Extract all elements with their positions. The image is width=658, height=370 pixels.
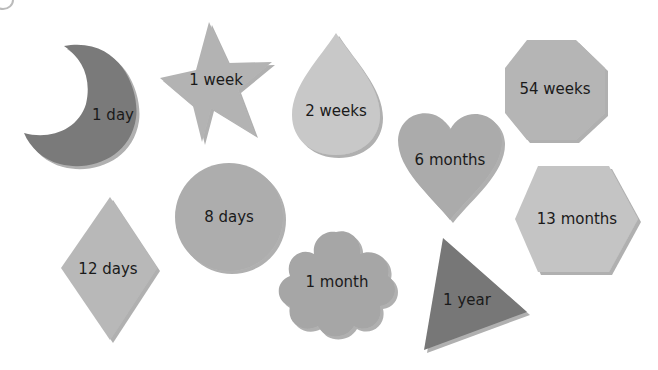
diamond-shape: 12 days <box>61 197 157 340</box>
triangle-label: 1 year <box>443 291 492 309</box>
drop-label: 2 weeks <box>305 102 367 120</box>
shapes-canvas: 1 day 1 week 2 weeks 54 weeks 6 months 1… <box>0 0 658 370</box>
hexagon-label: 13 months <box>537 210 618 228</box>
diamond-label: 12 days <box>78 260 137 278</box>
moon-label: 1 day <box>92 106 134 124</box>
drop-shape: 2 weeks <box>292 33 380 155</box>
star-shape: 1 week <box>160 22 272 142</box>
flower-label: 1 month <box>306 273 369 291</box>
flower-shape: 1 month <box>279 231 395 336</box>
moon-shape: 1 day <box>24 45 136 166</box>
octagon-shape: 54 weeks <box>505 40 605 140</box>
hexagon-shape: 13 months <box>515 166 638 272</box>
heart-shape: 6 months <box>398 113 502 220</box>
heart-label: 6 months <box>415 151 486 169</box>
circle-shape: 8 days <box>175 163 283 271</box>
star-label: 1 week <box>189 71 243 89</box>
octagon-label: 54 weeks <box>519 80 590 98</box>
circle-label: 8 days <box>204 208 254 226</box>
triangle-shape: 1 year <box>424 238 527 350</box>
